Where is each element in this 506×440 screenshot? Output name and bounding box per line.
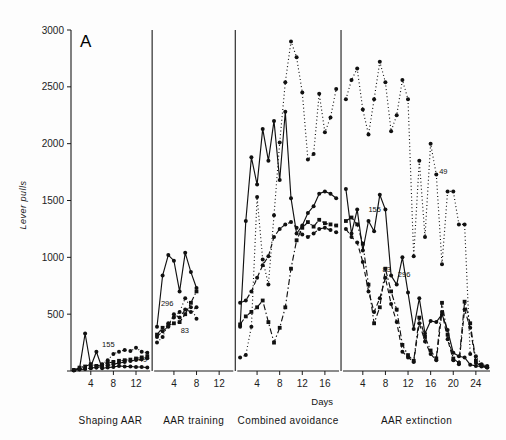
data-point	[378, 305, 382, 309]
data-point	[289, 220, 293, 224]
data-point	[244, 219, 248, 223]
y-axis-tick-label: 500	[47, 309, 64, 320]
data-point	[300, 233, 304, 237]
data-point	[289, 267, 293, 271]
data-point	[140, 350, 144, 354]
series-annotation-155: 155	[102, 340, 115, 349]
data-point	[272, 235, 276, 239]
data-point	[463, 355, 467, 359]
data-point	[451, 358, 455, 362]
data-point	[378, 296, 382, 300]
data-point	[89, 366, 93, 370]
data-point	[350, 235, 354, 239]
data-point	[434, 172, 438, 176]
data-point	[111, 362, 115, 366]
data-point	[400, 78, 404, 82]
data-point	[300, 91, 304, 95]
data-point	[117, 350, 121, 354]
data-point	[440, 310, 444, 314]
y-axis-tick-label: 3000	[42, 25, 65, 36]
data-point	[440, 262, 444, 266]
series-line-49	[240, 41, 336, 357]
data-point	[100, 365, 104, 369]
series-annotation-49: 49	[139, 355, 147, 364]
data-point	[468, 363, 472, 367]
data-point	[72, 368, 76, 372]
data-point	[295, 55, 299, 59]
data-point	[300, 226, 304, 230]
data-point	[329, 228, 333, 232]
data-point	[334, 196, 338, 200]
data-point	[272, 119, 276, 123]
data-point	[463, 222, 467, 226]
data-point	[261, 263, 265, 267]
x-axis-tick-label: 20	[448, 378, 460, 389]
data-point	[161, 326, 165, 330]
data-point	[485, 366, 489, 370]
series-line-296	[240, 220, 336, 343]
data-point	[355, 223, 359, 227]
data-point	[278, 141, 282, 145]
data-point	[372, 310, 376, 314]
data-point	[329, 192, 333, 196]
data-point	[451, 189, 455, 193]
data-point	[289, 39, 293, 43]
y-axis-title: Lever pulls	[18, 180, 28, 229]
data-point	[329, 223, 333, 227]
x-axis-tick-label: 8	[383, 378, 389, 389]
data-point	[238, 355, 242, 359]
series-annotation-49: 49	[439, 167, 447, 176]
series-line-83	[240, 222, 336, 303]
x-axis-tick-label: 12	[214, 378, 226, 389]
data-point	[155, 335, 159, 339]
data-point	[295, 238, 299, 242]
data-point	[183, 251, 187, 255]
data-point	[389, 302, 393, 306]
data-point	[400, 350, 404, 354]
data-point	[261, 299, 265, 303]
phase-label-aar-training: AAR training	[163, 415, 224, 426]
data-point	[417, 296, 421, 300]
data-point	[166, 253, 170, 257]
data-point	[355, 241, 359, 245]
series-line-155	[240, 112, 336, 327]
data-point	[446, 189, 450, 193]
data-point	[161, 274, 165, 278]
data-point	[183, 296, 187, 300]
data-point	[306, 220, 310, 224]
data-point	[323, 189, 327, 193]
data-point	[334, 230, 338, 234]
data-point	[155, 341, 159, 345]
data-point	[117, 361, 121, 365]
data-point	[417, 159, 421, 163]
y-axis-tick-label: 2000	[42, 138, 65, 149]
phase-label-shaping-aar: Shaping AAR	[79, 415, 143, 426]
data-point	[429, 352, 433, 356]
series-line-49	[346, 62, 487, 366]
data-point	[155, 325, 159, 329]
data-point	[412, 360, 416, 364]
data-point	[134, 358, 138, 362]
data-point	[317, 227, 321, 231]
x-axis-title: Days	[311, 396, 333, 407]
data-point	[161, 329, 165, 333]
data-point	[178, 289, 182, 293]
data-point	[266, 159, 270, 163]
data-point	[312, 232, 316, 236]
data-point	[244, 315, 248, 319]
data-point	[317, 218, 321, 222]
data-point	[78, 368, 82, 372]
x-axis-tick-label: 8	[277, 378, 283, 389]
x-axis-tick-label: 12	[402, 378, 414, 389]
data-point	[323, 130, 327, 134]
data-point	[249, 325, 253, 329]
data-point	[178, 320, 182, 324]
data-point	[283, 222, 287, 226]
data-point	[317, 92, 321, 96]
series-annotation-83: 83	[181, 326, 189, 335]
data-point	[406, 291, 410, 295]
data-point	[323, 221, 327, 225]
data-point	[272, 213, 276, 217]
data-point	[172, 312, 176, 316]
data-point	[378, 60, 382, 64]
